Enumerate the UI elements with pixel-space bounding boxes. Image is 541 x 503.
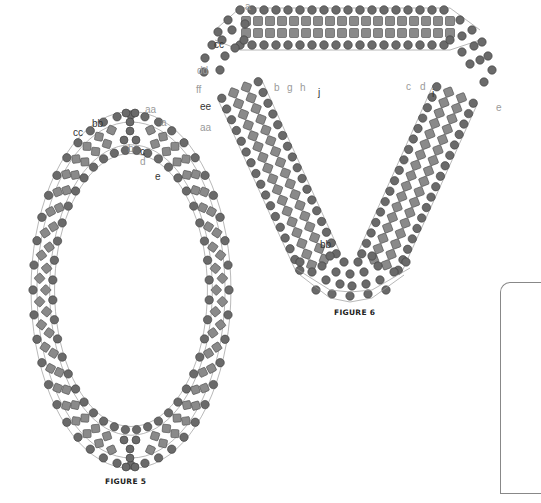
- round-bead: [476, 56, 484, 64]
- round-bead: [374, 262, 382, 270]
- figure-5-oval-beadwork: [29, 109, 233, 471]
- cube-bead: [266, 17, 275, 26]
- cube-bead: [260, 125, 271, 136]
- thread-label-h: h: [300, 82, 306, 93]
- cube-bead: [61, 401, 71, 411]
- round-bead: [296, 258, 304, 266]
- thread-label-dd: dd: [197, 65, 208, 76]
- round-bead: [293, 164, 301, 172]
- cube-bead: [248, 130, 259, 141]
- round-bead: [403, 245, 411, 253]
- round-bead: [126, 127, 134, 135]
- round-bead: [257, 180, 265, 188]
- cube-bead: [162, 424, 171, 433]
- thread-label-e: e: [496, 102, 502, 113]
- round-bead: [113, 459, 121, 467]
- round-bead: [122, 109, 130, 117]
- round-bead: [143, 423, 151, 431]
- cube-bead: [262, 163, 273, 174]
- cube-bead: [44, 242, 55, 253]
- round-bead: [113, 113, 121, 121]
- round-bead: [286, 245, 294, 253]
- round-bead: [196, 353, 204, 361]
- cube-bead: [396, 191, 407, 202]
- cube-bead: [295, 200, 306, 211]
- round-bead: [364, 290, 372, 298]
- round-bead: [182, 187, 190, 195]
- cube-bead: [83, 430, 91, 438]
- round-bead: [464, 109, 472, 117]
- round-bead: [141, 459, 149, 467]
- cube-bead: [432, 145, 443, 156]
- round-bead: [182, 385, 190, 393]
- round-bead: [456, 16, 464, 24]
- cube-bead: [390, 239, 401, 250]
- cube-bead: [36, 319, 47, 330]
- cube-bead: [52, 187, 62, 197]
- round-bead: [336, 280, 344, 288]
- cube-bead: [40, 342, 51, 353]
- cube-bead: [241, 82, 252, 93]
- cube-bead: [275, 157, 286, 168]
- round-bead: [201, 400, 209, 408]
- cube-bead: [409, 197, 420, 208]
- round-bead: [409, 135, 417, 143]
- round-bead: [428, 6, 437, 15]
- round-bead: [196, 219, 204, 227]
- cube-bead: [203, 348, 214, 359]
- cube-bead: [429, 118, 440, 129]
- round-bead: [50, 256, 58, 264]
- cube-bead: [207, 327, 218, 338]
- round-bead: [466, 60, 474, 68]
- cube-bead: [296, 238, 307, 249]
- cube-bead: [207, 242, 218, 253]
- thread-label-a: a: [161, 117, 167, 128]
- round-bead: [240, 36, 248, 44]
- cube-bead: [91, 147, 100, 156]
- round-bead: [64, 370, 72, 378]
- round-bead: [362, 239, 370, 247]
- round-bead: [417, 214, 425, 222]
- cube-bead: [418, 176, 429, 187]
- round-bead: [205, 276, 213, 284]
- cube-bead: [410, 160, 421, 171]
- round-bead: [232, 126, 240, 134]
- sidebar-panel-border: [500, 282, 541, 494]
- round-bead: [214, 28, 222, 36]
- round-bead: [222, 105, 230, 113]
- round-bead: [53, 400, 61, 408]
- round-bead: [49, 296, 57, 304]
- round-bead: [340, 258, 348, 266]
- cube-bead: [280, 168, 291, 179]
- round-bead: [237, 137, 245, 145]
- thread-label-b: b: [128, 143, 134, 154]
- round-bead: [53, 171, 61, 179]
- round-bead: [216, 358, 224, 366]
- cube-bead: [446, 17, 455, 26]
- round-bead: [416, 41, 425, 50]
- round-bead: [44, 380, 52, 388]
- cube-bead: [410, 29, 419, 38]
- cube-bead: [254, 17, 263, 26]
- cube-bead: [350, 29, 359, 38]
- round-bead: [99, 454, 107, 462]
- round-bead: [71, 385, 79, 393]
- cube-bead: [292, 227, 303, 238]
- round-bead: [272, 6, 281, 15]
- round-bead: [332, 41, 341, 50]
- round-bead: [132, 436, 140, 444]
- cube-bead: [182, 400, 192, 410]
- round-bead: [386, 187, 394, 195]
- round-bead: [221, 52, 229, 60]
- thread-path: [31, 112, 231, 469]
- round-bead: [121, 425, 129, 433]
- cube-bead: [191, 169, 201, 179]
- round-bead: [63, 418, 71, 426]
- round-bead: [274, 121, 282, 129]
- round-bead: [368, 41, 377, 50]
- round-bead: [281, 234, 289, 242]
- round-bead: [64, 202, 72, 210]
- round-bead: [218, 94, 226, 102]
- cube-bead: [266, 29, 275, 38]
- round-bead: [322, 228, 330, 236]
